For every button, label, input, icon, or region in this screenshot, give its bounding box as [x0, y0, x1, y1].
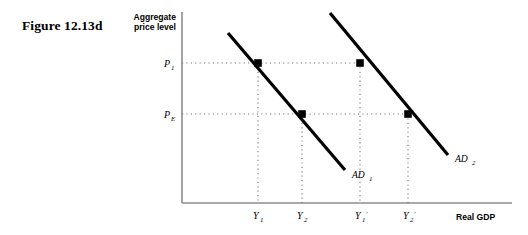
point-AD1-Y1-P1 — [254, 59, 262, 67]
curve-label-AD1-sub: 1 — [369, 175, 372, 182]
x-tick-Y1: Y 1 — [253, 210, 263, 223]
x-tick-Y1-prime-mark: ′ — [366, 210, 368, 217]
x-tick-Y2-prime-base: Y — [403, 210, 410, 221]
curve-label-AD1-base: AD — [351, 169, 365, 180]
y-tick-PE-sub: E — [170, 115, 176, 122]
x-tick-Y1-base: Y — [253, 210, 260, 221]
x-tick-Y2-prime-sub: 2 — [410, 216, 414, 223]
y-tick-P1-sub: 1 — [171, 64, 174, 71]
figure-page: Figure 12.13d Aggregate price level AD 1 — [0, 0, 528, 235]
y-tick-PE: P E — [163, 109, 176, 122]
curve-label-AD1: AD 1 — [351, 169, 372, 182]
y-tick-P1-base: P — [163, 58, 170, 69]
x-tick-Y2: Y 2 — [297, 210, 308, 223]
x-tick-Y1-prime-base: Y — [355, 210, 362, 221]
point-AD2-Y1prime-P1 — [356, 59, 364, 67]
y-tick-PE-base: P — [163, 109, 170, 120]
curve-label-AD2-sub: 2 — [472, 159, 476, 166]
x-tick-Y1-sub: 1 — [260, 216, 263, 223]
x-axis-title: Real GDP — [456, 212, 495, 222]
x-tick-Y2-prime-mark: ′ — [414, 210, 416, 217]
x-tick-Y2-base: Y — [297, 210, 304, 221]
x-tick-Y1-prime-sub: 1 — [362, 216, 365, 223]
curve-label-AD2: AD 2 — [454, 153, 476, 166]
curve-AD2 — [330, 13, 448, 155]
x-tick-Y2-sub: 2 — [304, 216, 308, 223]
curve-label-AD2-base: AD — [454, 153, 468, 164]
x-tick-Y2-prime: Y 2 ′ — [403, 210, 416, 223]
point-AD2-Y2prime-PE — [404, 110, 412, 118]
point-AD1-Y2-PE — [298, 110, 306, 118]
y-axis-title-line2: price level — [134, 22, 176, 32]
y-tick-P1: P 1 — [163, 58, 175, 71]
x-tick-Y1-prime: Y 1 ′ — [355, 210, 368, 223]
curve-AD1 — [228, 33, 345, 170]
ad-shift-diagram: Aggregate price level AD 1 AD 2 — [0, 0, 528, 235]
y-axis-title-line1: Aggregate — [134, 12, 177, 22]
